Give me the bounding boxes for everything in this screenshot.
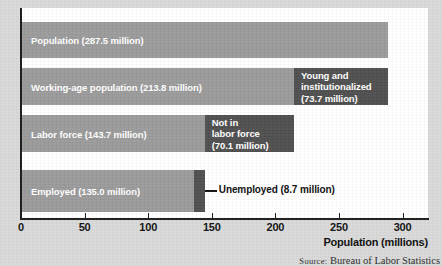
x-tick-mark — [21, 213, 22, 219]
bar-segment-label-line: (73.7 million) — [301, 92, 372, 104]
chart-figure: 050100150200250300 Population (287.5 mil… — [0, 0, 442, 266]
source-text: Bureau of Labor Statistics — [327, 255, 440, 266]
bar-row-employed: Employed (135.0 million) — [22, 170, 205, 212]
x-axis-line — [20, 218, 429, 220]
x-tick-mark — [403, 213, 404, 219]
x-tick-label: 0 — [1, 221, 41, 233]
x-tick-mark — [339, 213, 340, 219]
x-tick-mark — [85, 213, 86, 219]
bar-segment-label-line: (70.1 million) — [212, 139, 269, 151]
bar-segment-working-age-population-residual: Young andinstitutionalized(73.7 million) — [294, 68, 388, 105]
x-tick-label: 250 — [319, 221, 359, 233]
bar-row-population: Population (287.5 million) — [22, 22, 388, 58]
x-tick-mark — [212, 213, 213, 219]
unemployed-callout-label: Unemployed (8.7 million) — [219, 184, 335, 195]
x-tick-label: 300 — [383, 221, 423, 233]
bar-segment-label-labor-force: Not inlabor force(70.1 million) — [212, 116, 269, 151]
bar-segment-label-line: Young and — [301, 69, 372, 81]
bar-segment-label-line: institutionalized — [301, 81, 372, 93]
bar-segment-label-working-age-population: Young andinstitutionalized(73.7 million) — [301, 69, 372, 104]
x-tick-mark — [148, 213, 149, 219]
x-tick-label: 200 — [255, 221, 295, 233]
bar-segment-labor-force-residual: Not inlabor force(70.1 million) — [205, 115, 294, 152]
bar-segment-label-line: labor force — [212, 128, 269, 140]
bar-label-employed: Employed (135.0 million) — [31, 186, 140, 197]
bar-label-population: Population (287.5 million) — [31, 35, 143, 46]
x-axis-title: Population (millions) — [323, 236, 428, 248]
source-prefix: Source: — [299, 256, 327, 266]
y-axis-line — [20, 8, 22, 220]
unemployed-leader-line — [205, 190, 217, 192]
bar-segment-employed-residual — [194, 170, 205, 212]
x-tick-mark — [275, 213, 276, 219]
source-note: Source: Bureau of Labor Statistics — [299, 255, 440, 266]
bar-row-labor-force: Labor force (143.7 million)Not inlabor f… — [22, 115, 294, 152]
x-tick-label: 50 — [65, 221, 105, 233]
bar-row-working-age-population: Working-age population (213.8 million)Yo… — [22, 68, 388, 105]
x-tick-label: 100 — [128, 221, 168, 233]
x-tick-label: 150 — [192, 221, 232, 233]
bar-label-working-age-population: Working-age population (213.8 million) — [31, 81, 202, 92]
bar-label-labor-force: Labor force (143.7 million) — [31, 128, 147, 139]
bar-segment-label-line: Not in — [212, 116, 269, 128]
